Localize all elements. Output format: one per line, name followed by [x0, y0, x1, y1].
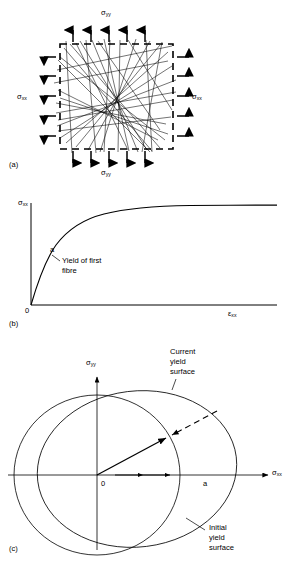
panel-b-origin-label: 0: [25, 306, 29, 316]
stress-arrows-bottom: [73, 151, 145, 163]
panel-b-drawing: [0, 185, 296, 335]
panel-c-drawing: [0, 332, 296, 566]
panel-a-tag: (a): [9, 160, 18, 170]
panel-c-origin-label: 0: [101, 479, 105, 489]
panel-c-yield-surfaces: σyy σxx 0 a Current yield surface Initia…: [0, 332, 296, 566]
panel-b-yield-annotation: Yield of first fibre: [62, 256, 101, 276]
panel-a-right-stress-label: σxx: [192, 92, 202, 103]
panel-c-tag: (c): [9, 544, 18, 554]
panel-a-left-stress-label: σxx: [17, 92, 27, 103]
panel-b-x-axis-label: εxx: [228, 309, 237, 320]
initial-yield-surface-label: Initial yield surface: [209, 523, 234, 553]
panel-a-fibre-composite: σyy σyy σxx σxx (a): [0, 0, 296, 185]
panel-a-bottom-stress-label: σyy: [101, 168, 111, 179]
panel-c-point-a-label: a: [203, 479, 207, 489]
stress-arrows-left: [44, 57, 56, 136]
panel-b-annotation-leader: [52, 255, 60, 261]
initial-surface-leader: [186, 518, 205, 530]
panel-a-top-stress-label: σyy: [101, 8, 111, 19]
panel-b-y-axis-label: σxx: [18, 198, 28, 209]
fibre-network: [54, 39, 176, 153]
panel-b-tag: (b): [9, 319, 18, 329]
panel-b-stress-strain-curve: σxx εxx 0 a Yield of first fibre (b): [0, 185, 296, 335]
stress-arrows-top: [73, 30, 145, 42]
panel-b-point-a-label: a: [50, 245, 54, 255]
stress-arrows-right: [177, 57, 189, 136]
panel-c-y-axis-label: σyy: [86, 358, 96, 369]
panel-c-x-axis-label: σxx: [272, 468, 282, 479]
loading-path-arrow: [97, 438, 166, 475]
translation-arrow: [172, 411, 217, 435]
panel-a-drawing: [0, 0, 296, 185]
current-surface-leader: [172, 379, 176, 390]
current-yield-surface-label: Current yield surface: [170, 347, 195, 377]
figure-container: σyy σyy σxx σxx (a) σxx εxx 0 a Yield of…: [0, 0, 296, 566]
